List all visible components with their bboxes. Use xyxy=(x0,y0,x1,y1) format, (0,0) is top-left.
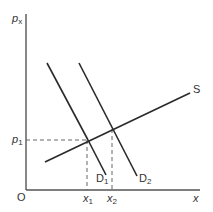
supply-demand-diagram: px O x S D1 D2 p1 x1 x2 xyxy=(0,0,213,212)
origin-label: O xyxy=(17,192,26,203)
x-axis-label: x xyxy=(193,193,199,204)
quantity-x1-label: x1 xyxy=(83,193,93,204)
demand-2-label: D2 xyxy=(139,173,151,184)
y-axis-label: px xyxy=(12,13,22,24)
supply-curve xyxy=(45,93,190,162)
supply-label: S xyxy=(193,84,200,95)
demand-1-label: D1 xyxy=(96,173,108,184)
demand-curve-1 xyxy=(47,63,88,140)
quantity-x2-label: x2 xyxy=(107,193,117,204)
demand-curve-2 xyxy=(79,63,137,176)
price-p1-label: p1 xyxy=(12,134,23,145)
demand-curve-1-lower xyxy=(88,140,106,175)
